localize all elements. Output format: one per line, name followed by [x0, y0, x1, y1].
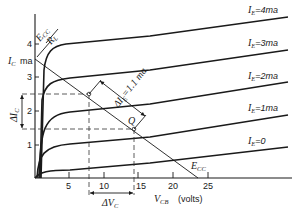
y-tick-label: 3	[27, 72, 32, 82]
x-tick-label: 25	[203, 181, 213, 191]
label-ie-0: IE=0	[247, 135, 266, 147]
x-tick-label: 15	[136, 181, 146, 191]
label-ie-3ma: IE=3ma	[247, 37, 278, 49]
axes	[35, 14, 292, 178]
label-ie-4ma: IE=4ma	[247, 4, 278, 16]
delta-ic-bracket: ΔIC	[8, 95, 24, 128]
curve-ie-1ma	[37, 115, 288, 178]
x-axis-label: VCB (volts)	[154, 193, 203, 205]
load-line	[35, 59, 198, 178]
label-ecc: ECC	[190, 160, 206, 172]
x-tick-label: 20	[168, 181, 178, 191]
dashed-guides	[22, 94, 134, 195]
label-ie-1ma: IE=1ma	[247, 102, 278, 114]
svg-text:(volts): (volts)	[178, 194, 203, 204]
label-ecc-over-rl: ECC RL	[32, 24, 59, 57]
delta-vc-bracket: ΔVC	[90, 191, 133, 209]
svg-text:ΔIC: ΔIC	[8, 108, 20, 123]
curve-ie-2ma	[39, 82, 288, 178]
x-tick-label: 10	[99, 181, 109, 191]
svg-text:ΔVC: ΔVC	[101, 197, 119, 209]
q-label: Q	[128, 115, 136, 126]
x-tick-label: 5	[66, 181, 71, 191]
label-ie-2ma: IE=2ma	[247, 70, 278, 82]
y-tick-label: 1	[27, 140, 32, 150]
transistor-characteristic-chart: 5 10 15 20 25 1 2 3 4 IC ma VCB (volts) …	[0, 0, 298, 211]
x-ticks: 5 10 15 20 25	[66, 172, 213, 191]
y-axis-label: IC ma	[7, 55, 33, 67]
curve-labels: IE=4ma IE=3ma IE=2ma IE=1ma IE=0	[247, 4, 278, 147]
svg-text:IC: IC	[7, 55, 16, 67]
svg-text:ma: ma	[20, 56, 33, 66]
y-tick-label: 2	[27, 106, 32, 116]
y-tick-label: 4	[27, 39, 32, 49]
svg-text:VCB: VCB	[154, 193, 168, 205]
